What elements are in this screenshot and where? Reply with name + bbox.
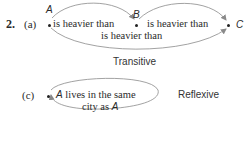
node-a-dot-reflexive	[47, 95, 50, 98]
node-a-label: A	[46, 4, 53, 15]
arc-a-to-b	[52, 3, 134, 19]
node-c-dot	[227, 24, 230, 27]
part-c-label: (c)	[22, 89, 34, 101]
node-b-label: B	[133, 9, 140, 20]
loop-label-line2: city as A	[82, 101, 118, 112]
loop-var-a2: A	[112, 101, 119, 112]
loop-var-a1: A	[56, 89, 63, 100]
edge-a-c-label: is heavier than	[101, 30, 162, 41]
loop-label-line1-text: lives in the same	[63, 89, 136, 100]
node-a-dot	[48, 24, 51, 27]
relation-arrows	[0, 0, 251, 143]
edge-a-b-label: is heavier than	[53, 18, 114, 29]
property-reflexive: Reflexive	[178, 89, 219, 100]
node-c-label: C	[236, 19, 243, 30]
problem-number: 2.	[6, 17, 15, 32]
edge-b-c-label: is heavier than	[147, 18, 208, 29]
node-b-dot	[135, 24, 138, 27]
part-a-label: (a)	[24, 18, 36, 30]
loop-label-line2-text: city as	[82, 101, 112, 112]
loop-label-line1: A lives in the same	[56, 89, 136, 100]
property-transitive: Transitive	[113, 56, 156, 67]
